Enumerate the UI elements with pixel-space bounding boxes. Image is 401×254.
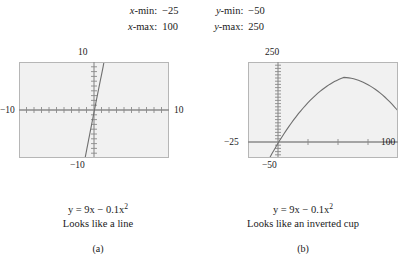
axis-label-bottom-a: −10 [70, 160, 85, 170]
figure-panel-a: 10 −10 −10 10 y = 9x − 0.1x2 Looks like … [0, 45, 196, 157]
plot-area-a: 10 −10 −10 10 [0, 45, 196, 157]
description-a: Looks like a line [0, 217, 196, 231]
x-max-label: x-max: [128, 20, 162, 36]
column-gap [192, 20, 214, 36]
caption-b: y = 9x − 0.1x2 Looks like an inverted cu… [205, 203, 401, 230]
function-curve-b [270, 77, 400, 157]
plot-area-b: 250 −50 −25 100 [205, 45, 401, 157]
axis-label-left-b: −25 [224, 137, 239, 147]
table-row: x-max: 100 y-max: 250 [128, 20, 278, 36]
panel-letter-a: (a) [0, 243, 196, 254]
x-min-value: −25 [162, 4, 192, 20]
table-row: x-min: −25 y-min: −50 [128, 4, 278, 20]
equation-b: y = 9x − 0.1x2 [205, 203, 401, 217]
y-min-label: y-min: [214, 4, 248, 20]
caption-a: y = 9x − 0.1x2 Looks like a line [0, 203, 196, 230]
equation-text-b: y = 9x − 0.1x [273, 204, 329, 215]
y-min-value: −50 [248, 4, 278, 20]
equation-a: y = 9x − 0.1x2 [0, 203, 196, 217]
description-b: Looks like an inverted cup [205, 217, 401, 231]
window-settings-table: x-min: −25 y-min: −50 x-max: 100 y-max: … [128, 4, 278, 36]
y-max-label: y-max: [214, 20, 248, 36]
column-gap [192, 4, 214, 20]
axis-label-right-a: 10 [174, 105, 184, 115]
equation-exponent-b: 2 [329, 202, 333, 211]
axis-label-bottom-b: −50 [262, 160, 277, 170]
equation-text-a: y = 9x − 0.1x [68, 204, 124, 215]
plot-graphic-a [0, 45, 196, 157]
axis-label-left-a: −10 [0, 105, 15, 115]
window-settings: x-min: −25 y-min: −50 x-max: 100 y-max: … [128, 4, 358, 36]
axis-label-top-b: 250 [265, 47, 279, 57]
x-max-value: 100 [162, 20, 192, 36]
panel-letter-b: (b) [205, 243, 401, 254]
x-min-label: x-min: [128, 4, 162, 20]
y-max-value: 250 [248, 20, 278, 36]
equation-exponent-a: 2 [124, 202, 128, 211]
axis-label-right-b: 100 [381, 137, 395, 147]
figure-panel-b: 250 −50 −25 100 y = 9x − 0.1x2 Looks lik… [205, 45, 401, 157]
axis-label-top-a: 10 [78, 47, 88, 57]
